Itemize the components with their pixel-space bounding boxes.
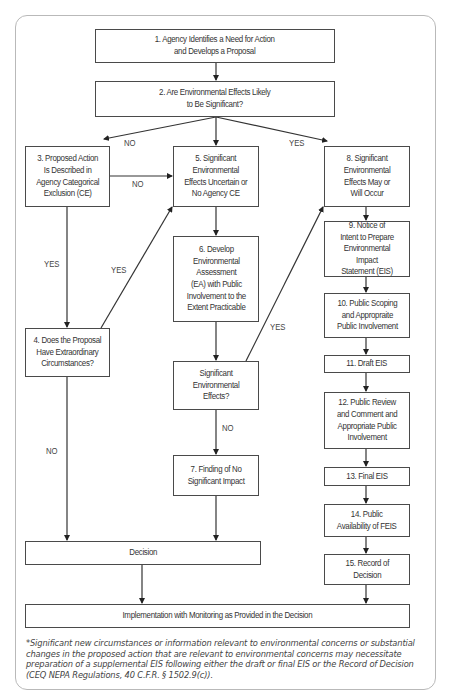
step-2-box: 2. Are Environmental Effects Likely to B… — [95, 81, 335, 117]
step-1-box: 1. Agency Identifies a Need for Action a… — [95, 29, 335, 63]
step-9-text: 9. Notice of Intent to Prepare Environme… — [333, 220, 402, 278]
significant-effects-box: Significant Environmental Effects? — [173, 361, 259, 410]
step-6-text: 6. Develop Environmental Assessment (EA)… — [186, 244, 245, 314]
step-2-text: 2. Are Environmental Effects Likely to B… — [159, 87, 270, 110]
step-3-box: 3. Proposed Action Is Described in Agenc… — [25, 146, 110, 207]
step-3-text: 3. Proposed Action Is Described in Agenc… — [36, 153, 99, 199]
step-11-box: 11. Draft EIS — [324, 355, 410, 373]
step-11-text: 11. Draft EIS — [347, 358, 388, 370]
label-no-sig-to-7: NO — [222, 423, 234, 433]
label-no-3-to-5: NO — [132, 179, 144, 189]
label-no-left: NO — [124, 138, 136, 148]
step-6-box: 6. Develop Environmental Assessment (EA)… — [173, 236, 259, 322]
step-5-text: 5. Significant Environmental Effects Unc… — [184, 153, 247, 199]
step-13-text: 13. Final EIS — [346, 471, 387, 483]
step-14-box: 14. Public Availability of FEIS — [324, 504, 410, 537]
implementation-box: Implementation with Monitoring as Provid… — [25, 604, 410, 628]
significant-effects-text: Significant Environmental Effects? — [193, 368, 240, 403]
step-12-text: 12. Public Review and Comment and Approp… — [337, 397, 397, 443]
label-yes-3-to-4: YES — [44, 259, 59, 269]
step-13-box: 13. Final EIS — [324, 467, 410, 486]
step-8-text: 8. Significant Environmental Effects May… — [344, 153, 391, 199]
step-12-box: 12. Public Review and Comment and Approp… — [324, 392, 410, 449]
step-10-text: 10. Public Scoping and Appropraite Publi… — [337, 298, 398, 333]
step-7-box: 7. Finding of No Significant Impact — [173, 455, 259, 496]
label-yes-4-to-5: YES — [111, 265, 126, 275]
decision-text: Decision — [129, 547, 157, 559]
label-yes-sig-to-8: YES — [270, 322, 285, 332]
step-4-text: 4. Does the Proposal Have Extraordinary … — [34, 335, 102, 370]
step-1-text: 1. Agency Identifies a Need for Action a… — [155, 34, 275, 57]
step-10-box: 10. Public Scoping and Appropraite Publi… — [324, 293, 410, 338]
step-15-text: 15. Record of Decision — [345, 558, 389, 581]
decision-box: Decision — [25, 541, 261, 565]
step-7-text: 7. Finding of No Significant Impact — [188, 464, 245, 487]
implementation-text: Implementation with Monitoring as Provid… — [123, 610, 313, 622]
step-9-box: 9. Notice of Intent to Prepare Environme… — [324, 221, 410, 277]
label-no-4-to-decision: NO — [46, 446, 58, 456]
step-8-box: 8. Significant Environmental Effects May… — [324, 146, 410, 207]
step-4-box: 4. Does the Proposal Have Extraordinary … — [25, 328, 110, 377]
label-yes-right: YES — [289, 138, 304, 148]
footnote: *Significant new circumstances or inform… — [26, 638, 421, 680]
step-15-box: 15. Record of Decision — [324, 554, 410, 585]
step-14-text: 14. Public Availability of FEIS — [337, 509, 397, 532]
step-5-box: 5. Significant Environmental Effects Unc… — [173, 146, 259, 207]
